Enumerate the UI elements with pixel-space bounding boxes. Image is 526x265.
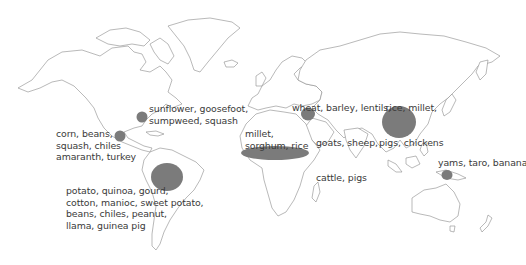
arctic-islands — [96, 28, 150, 46]
label-eastern-north-america: sunflower, goosefoot, sumpweed, squash — [149, 103, 248, 126]
label-fertile-crescent-line-1: wheat, barley, lentils, — [292, 102, 391, 114]
label-south-america: potato, quinoa, gourd, cotton, manioc, s… — [66, 185, 204, 231]
tasmania — [450, 226, 455, 232]
new-zealand — [480, 215, 492, 232]
center-eastern-north-america — [137, 112, 148, 123]
label-china: rice, millet, pigs, chickens — [379, 79, 444, 172]
baffin-island — [150, 38, 174, 64]
label-fertile-crescent-line-2: goats, sheep, — [292, 137, 391, 149]
label-china-line-2: pigs, chickens — [379, 137, 444, 149]
label-fertile-crescent-line-3: cattle, pigs — [292, 172, 391, 184]
label-china-line-1: rice, millet, — [379, 102, 444, 114]
domestication-map: sunflower, goosefoot, sumpweed, squash c… — [0, 0, 526, 265]
label-mesoamerica: corn, beans, squash, chiles amaranth, tu… — [56, 128, 136, 163]
australia-landmass — [412, 184, 460, 222]
label-new-guinea: yams, taro, banana — [438, 157, 526, 169]
cuba — [146, 131, 164, 136]
label-fertile-crescent: wheat, barley, lentils, goats, sheep, ca… — [292, 79, 391, 207]
iceland — [224, 60, 238, 67]
